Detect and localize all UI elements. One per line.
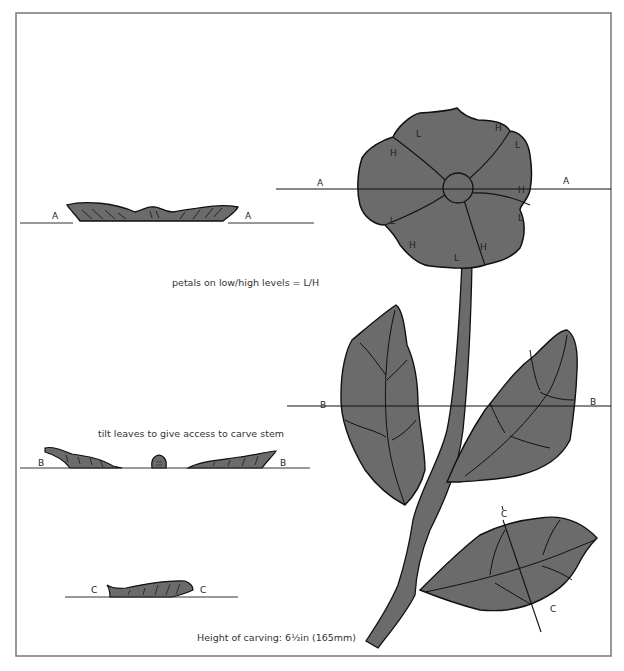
svg-text:L: L [515, 140, 520, 150]
svg-text:H: H [409, 240, 416, 250]
caption-leaves: tilt leaves to give access to carve stem [98, 428, 284, 439]
svg-text:L: L [390, 216, 395, 226]
svg-text:L: L [416, 129, 421, 139]
svg-text:L: L [454, 253, 459, 263]
label-leaf-c-top: C [501, 509, 507, 519]
label-flower-a-right: A [563, 176, 570, 186]
svg-text:H: H [480, 242, 487, 252]
svg-text:L: L [518, 213, 523, 223]
label-a-left: A [52, 211, 59, 221]
svg-text:H: H [390, 148, 397, 158]
caption-height: Height of carving: 6½in (165mm) [197, 632, 356, 643]
flower-center [443, 173, 473, 203]
label-c-left: C [91, 585, 97, 595]
label-leaf-b-right: B [590, 397, 596, 407]
label-flower-a-left: A [317, 178, 324, 188]
leaf-upper-left [341, 305, 425, 505]
flower [358, 108, 532, 268]
caption-petals: petals on low/high levels = L/H [172, 277, 319, 288]
section-a-profile [20, 203, 314, 223]
carving-diagram: L H H L H L L H H L A A A A B B B B C C … [0, 0, 624, 671]
leaf-lower [420, 517, 597, 611]
label-c-right: C [200, 585, 206, 595]
label-b-right: B [280, 458, 286, 468]
svg-text:H: H [518, 185, 525, 195]
label-b-left: B [38, 458, 44, 468]
label-leaf-b-left: B [320, 400, 326, 410]
label-a-right: A [245, 211, 252, 221]
section-b-profile [20, 447, 310, 468]
svg-text:H: H [495, 123, 502, 133]
label-leaf-c-bottom: C [550, 604, 556, 614]
